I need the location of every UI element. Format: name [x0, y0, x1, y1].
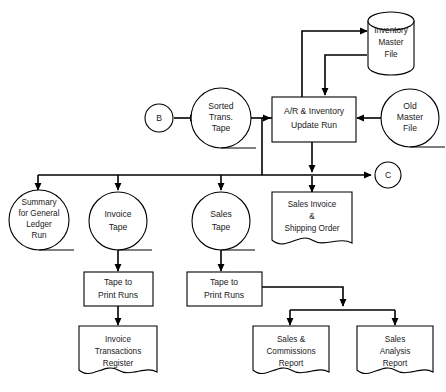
print-runs-left-line2: Print Runs [98, 290, 138, 300]
old-master-line2: Master [397, 112, 423, 122]
print-runs-right-line1: Tape to [210, 277, 238, 287]
summary-ledger-line4: Run [31, 231, 46, 240]
node-invoice-tape[interactable]: Invoice Tape [89, 192, 152, 250]
inventory-master-line3: File [384, 50, 398, 59]
sales-analysis-line2: Analysis [380, 347, 411, 356]
node-old-master-file[interactable]: Old Master File [381, 89, 445, 147]
node-summary-general-ledger[interactable]: Summary for General Ledger Run [9, 190, 74, 250]
connector-c-label: C [385, 170, 391, 180]
ar-update-run-line2: Update Run [291, 120, 337, 130]
edge-inventory-master-to-ar-run [325, 55, 367, 95]
node-sales-invoice-shipping-order[interactable]: Sales Invoice & Shipping Order [272, 192, 352, 244]
invoice-register-line1: Invoice [105, 335, 131, 344]
print-runs-left-line1: Tape to [104, 277, 132, 287]
edge-ar-run-to-inventory-master [302, 31, 367, 97]
sales-commissions-line3: Report [279, 359, 304, 368]
node-invoice-transactions-register[interactable]: Invoice Transactions Register [79, 326, 157, 374]
node-sales-tape[interactable]: Sales Tape [192, 192, 255, 250]
old-master-line3: File [403, 123, 417, 133]
ar-update-run-line1: A/R & Inventory [284, 106, 345, 116]
sorted-trans-tape-line1: Sorted [208, 101, 234, 111]
sales-invoice-line2: & [309, 212, 315, 221]
node-sales-analysis-report[interactable]: Sales Analysis Report [357, 326, 433, 374]
inventory-master-line1: Inventory [374, 26, 409, 35]
sales-invoice-line1: Sales Invoice [288, 200, 337, 209]
connector-b[interactable]: B [145, 104, 173, 132]
node-sales-commissions-report[interactable]: Sales & Commissions Report [253, 326, 329, 374]
flowchart-svg: B Sorted Trans. Tape A/R & Inventory Upd… [0, 0, 446, 392]
invoice-tape-line1: Invoice [104, 209, 131, 219]
connector-c[interactable]: C [375, 162, 401, 188]
summary-ledger-line3: Ledger [26, 220, 52, 229]
node-sorted-trans-tape[interactable]: Sorted Trans. Tape [191, 88, 256, 148]
edge-print-runs-to-reports [262, 287, 395, 325]
node-inventory-master-file[interactable]: Inventory Master File [368, 12, 414, 75]
node-ar-inventory-update-run[interactable]: A/R & Inventory Update Run [272, 97, 356, 142]
flowchart-canvas: B Sorted Trans. Tape A/R & Inventory Upd… [0, 0, 446, 392]
node-tape-to-print-runs-left[interactable]: Tape to Print Runs [84, 272, 153, 306]
sales-commissions-line2: Commissions [266, 347, 315, 356]
sorted-trans-tape-line2: Trans. [209, 112, 233, 122]
sales-analysis-line3: Report [383, 359, 408, 368]
inventory-master-line2: Master [378, 38, 403, 47]
node-tape-to-print-runs-right[interactable]: Tape to Print Runs [187, 272, 262, 306]
summary-ledger-line1: Summary [21, 198, 57, 207]
print-runs-right-line2: Print Runs [204, 290, 244, 300]
invoice-tape-line2: Tape [109, 222, 128, 232]
sales-tape-line2: Tape [212, 222, 231, 232]
sales-tape-line1: Sales [210, 209, 232, 219]
old-master-line1: Old [403, 101, 417, 111]
sales-commissions-line1: Sales & [277, 335, 306, 344]
connector-b-label: B [156, 113, 162, 123]
invoice-register-line2: Transactions [95, 347, 142, 356]
summary-ledger-line2: for General [19, 209, 60, 218]
sales-invoice-line3: Shipping Order [284, 224, 339, 233]
sorted-trans-tape-line3: Tape [212, 123, 231, 133]
invoice-register-line3: Register [103, 359, 134, 368]
sales-analysis-line1: Sales [385, 335, 405, 344]
